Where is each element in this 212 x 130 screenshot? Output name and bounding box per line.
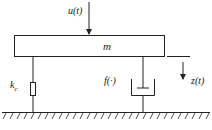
damper-element bbox=[132, 57, 155, 112]
diagram-canvas bbox=[0, 0, 212, 130]
spring-element bbox=[31, 57, 36, 112]
stiffness-subscript: c bbox=[14, 85, 17, 93]
input-label: u(t) bbox=[68, 6, 82, 16]
input-force-arrow bbox=[86, 2, 92, 35]
displacement-arrow bbox=[167, 57, 190, 81]
ground bbox=[2, 113, 210, 120]
stiffness-label: kc bbox=[10, 80, 18, 93]
displacement-label: z(t) bbox=[191, 76, 204, 86]
damper-label: f(·) bbox=[104, 76, 116, 86]
mass-label: m bbox=[103, 41, 111, 52]
mass-block bbox=[15, 36, 165, 57]
